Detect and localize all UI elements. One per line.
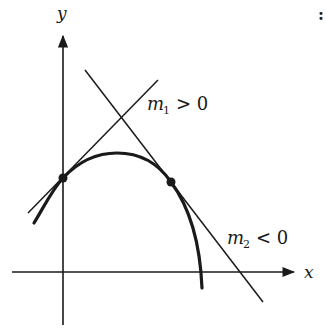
curve [34,153,202,288]
svg-text:m: m [147,93,164,114]
slope-label-m2: m 2 < 0 [227,227,288,251]
y-axis-label: y [56,3,67,23]
corner-mark: : [318,5,324,24]
x-axis-label: x [304,262,314,282]
tangent-line-positive [28,80,158,213]
svg-text:m: m [227,227,244,248]
tangent-slope-diagram: y x m 1 > 0 m 2 < 0 : [0,0,325,331]
svg-text:> 0: > 0 [176,93,208,114]
svg-text:2: 2 [243,238,250,251]
tangent-point-2 [167,178,176,187]
svg-text:1: 1 [163,104,170,117]
tangent-point-1 [59,174,68,183]
slope-label-m1: m 1 > 0 [147,93,208,117]
svg-text:< 0: < 0 [256,227,288,248]
